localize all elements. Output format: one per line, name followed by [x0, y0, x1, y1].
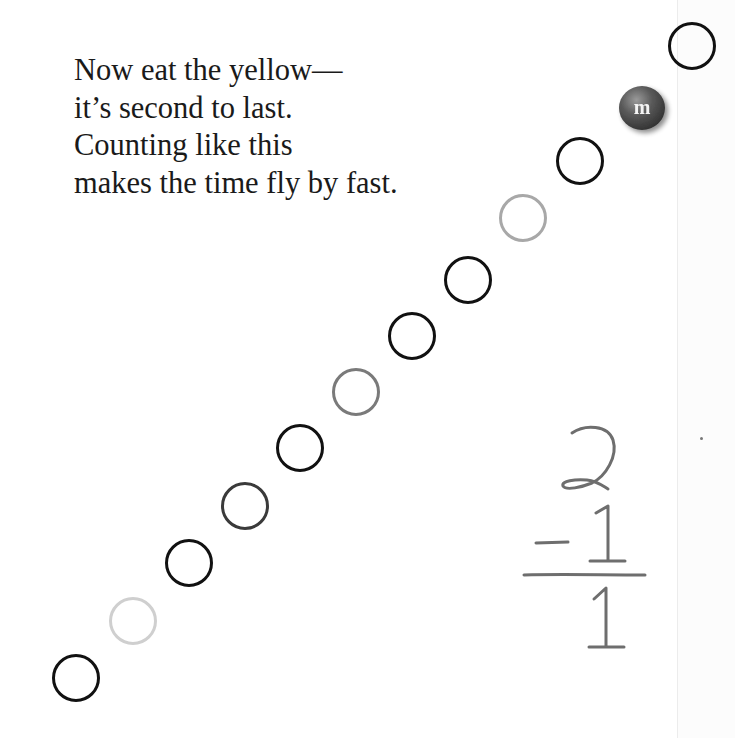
empty-candy-slot	[223, 484, 268, 529]
pencil-subtraction	[524, 427, 645, 647]
empty-candy-slot	[54, 656, 99, 701]
empty-candy-slot	[167, 541, 212, 586]
empty-candy-slot	[501, 196, 546, 241]
empty-candy-slot	[558, 139, 603, 184]
digit-two	[563, 427, 614, 489]
paper-speck	[700, 437, 703, 440]
empty-candy-slot	[670, 24, 715, 69]
empty-candy-slot	[446, 258, 491, 303]
digit-one-subtrahend	[590, 506, 625, 561]
minus-sign	[536, 542, 568, 543]
candy-logo: m	[634, 96, 651, 118]
counting-illustration: m	[0, 0, 735, 738]
empty-candy-slot	[111, 599, 156, 644]
candy-slots: m	[54, 24, 715, 701]
empty-candy-slot	[278, 426, 323, 471]
candy-piece: m	[619, 86, 665, 130]
empty-candy-slot	[334, 370, 379, 415]
digit-one-difference	[589, 588, 624, 647]
empty-candy-slot	[390, 314, 435, 359]
